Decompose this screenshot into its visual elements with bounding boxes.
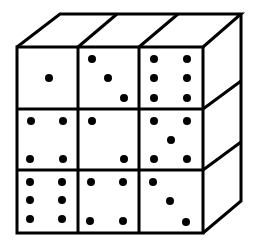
pip-dot [120,155,128,163]
pip-dot [26,215,34,223]
die-face-r1c2 [88,55,128,102]
pip-dot [27,117,35,125]
pip-dot [58,196,66,204]
pip-dot [150,117,158,125]
die-face-r1c1 [45,74,53,82]
pip-dot [26,155,34,163]
die-face-r1c3 [150,55,191,102]
pip-dot [120,94,128,102]
pip-dot [59,117,67,125]
dice-cube-drawing [0,0,257,249]
pip-dot [150,74,158,82]
die-face-r3c2 [86,178,127,225]
side-divider-2 [203,142,241,170]
pip-dot [104,74,112,82]
pip-dot [167,136,175,144]
pip-dot [150,155,158,163]
pip-dot [86,217,94,225]
pip-dot [150,94,158,102]
pip-dot [26,196,34,204]
pip-dot [183,74,191,82]
die-face-r3c1 [26,178,66,223]
pip-dot [166,197,174,205]
side-face-outline [203,14,241,233]
pip-dot [45,74,53,82]
pip-dot [119,178,127,186]
pip-dot [88,117,96,125]
dice-pips [26,55,191,226]
pip-dot [88,55,96,63]
pip-dot [183,55,191,63]
die-face-r2c3 [150,117,191,163]
top-face-outline [17,14,241,47]
pip-dot [183,94,191,102]
die-face-r2c2 [88,117,128,163]
pip-dot [59,155,67,163]
pip-dot [58,215,66,223]
pip-dot [150,55,158,63]
pip-dot [58,178,66,186]
dice-cube-figure [0,0,257,249]
top-divider-2 [139,14,178,47]
pip-dot [87,178,95,186]
pip-dot [183,117,191,125]
pip-dot [182,218,190,226]
cube-outline [17,14,241,233]
pip-dot [119,217,127,225]
die-face-r2c1 [26,117,67,163]
pip-dot [149,178,157,186]
top-divider-1 [78,14,117,47]
die-face-r3c3 [149,178,190,226]
side-divider-1 [203,81,241,109]
pip-dot [26,178,34,186]
pip-dot [183,155,191,163]
